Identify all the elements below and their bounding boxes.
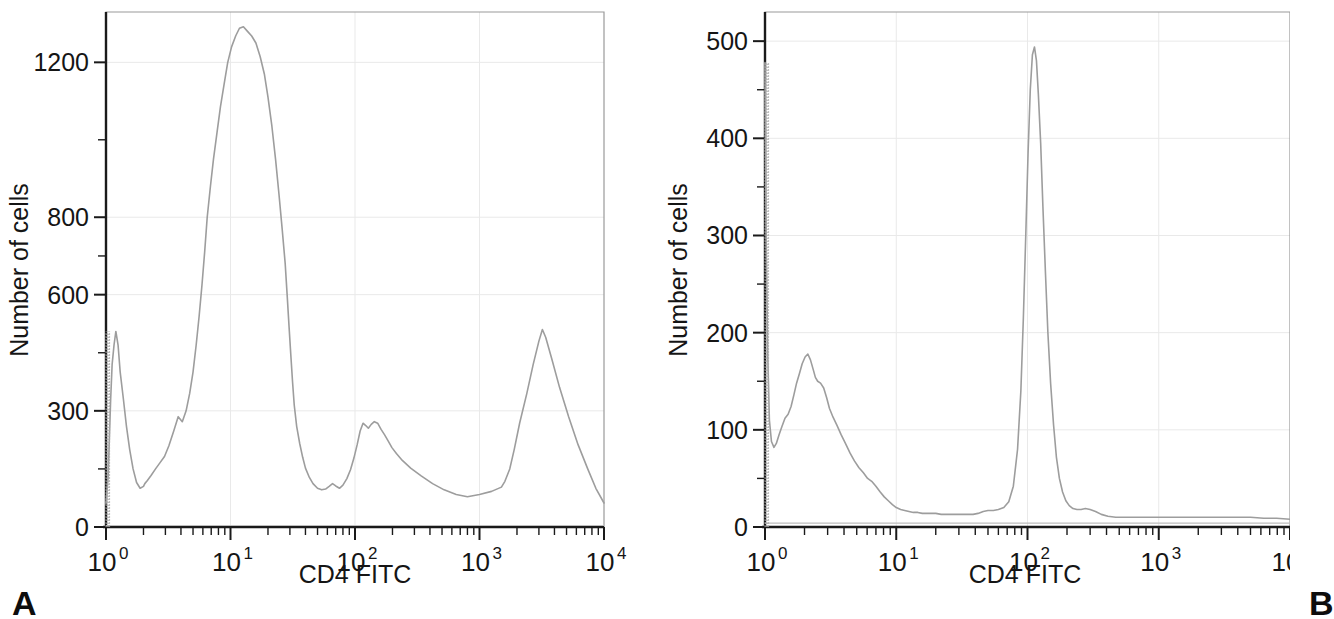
y-tick-label: 600 xyxy=(47,281,89,309)
panel-b-ytick-labels: 0100200300400500 xyxy=(706,27,748,541)
x-tick-exponent: 0 xyxy=(119,544,128,563)
x-tick-label: 10 xyxy=(1140,547,1169,577)
x-tick-label: 10 xyxy=(212,547,241,577)
panel-b-frame xyxy=(762,12,1290,527)
x-tick-label: 10 xyxy=(88,547,117,577)
panel-letter-b: B xyxy=(1309,586,1334,619)
panel-a-y-axis-title: Number of cells xyxy=(5,183,33,357)
x-tick-label: 10 xyxy=(747,547,776,577)
y-tick-label: 1200 xyxy=(33,48,89,76)
panel-b-gridlines xyxy=(765,12,1290,527)
y-tick-label: 300 xyxy=(706,221,748,249)
panel-b-xticks xyxy=(765,527,1290,540)
panel-b: 100101102103104 0100200300400500 CD4 FIT… xyxy=(645,0,1290,610)
panel-a-plot: 100101102103104 03006008001200 CD4 FITC … xyxy=(0,0,645,610)
x-tick-exponent: 0 xyxy=(778,544,787,563)
x-tick-label: 10 xyxy=(586,547,615,577)
panel-b-plot: 100101102103104 0100200300400500 CD4 FIT… xyxy=(645,0,1290,610)
x-tick-exponent: 1 xyxy=(244,544,253,563)
panel-b-y-axis-title: Number of cells xyxy=(664,183,692,357)
y-tick-label: 300 xyxy=(47,397,89,425)
x-tick-exponent: 1 xyxy=(909,544,918,563)
panel-b-x-axis-title: CD4 FITC xyxy=(969,560,1082,588)
x-tick-exponent: 3 xyxy=(1172,544,1181,563)
panel-a: 100101102103104 03006008001200 CD4 FITC … xyxy=(0,0,645,610)
x-tick-exponent: 3 xyxy=(493,544,502,563)
y-tick-label: 200 xyxy=(706,319,748,347)
x-tick-label: 10 xyxy=(1272,547,1290,577)
panel-a-gridlines xyxy=(106,12,604,527)
panel-a-xticks xyxy=(106,527,604,540)
panel-a-yticks xyxy=(94,62,106,527)
x-tick-label: 10 xyxy=(878,547,907,577)
x-tick-exponent: 4 xyxy=(617,544,626,563)
y-tick-label: 500 xyxy=(706,27,748,55)
panel-b-yticks xyxy=(753,41,765,527)
y-tick-label: 0 xyxy=(75,513,89,541)
panel-a-x-axis-title: CD4 FITC xyxy=(299,560,412,588)
panel-a-frame xyxy=(103,12,604,527)
panel-letter-a: A xyxy=(12,586,37,619)
y-tick-label: 100 xyxy=(706,416,748,444)
y-tick-label: 400 xyxy=(706,124,748,152)
y-tick-label: 800 xyxy=(47,203,89,231)
panel-a-ytick-labels: 03006008001200 xyxy=(33,48,89,541)
x-tick-label: 10 xyxy=(461,547,490,577)
y-tick-label: 0 xyxy=(734,513,748,541)
